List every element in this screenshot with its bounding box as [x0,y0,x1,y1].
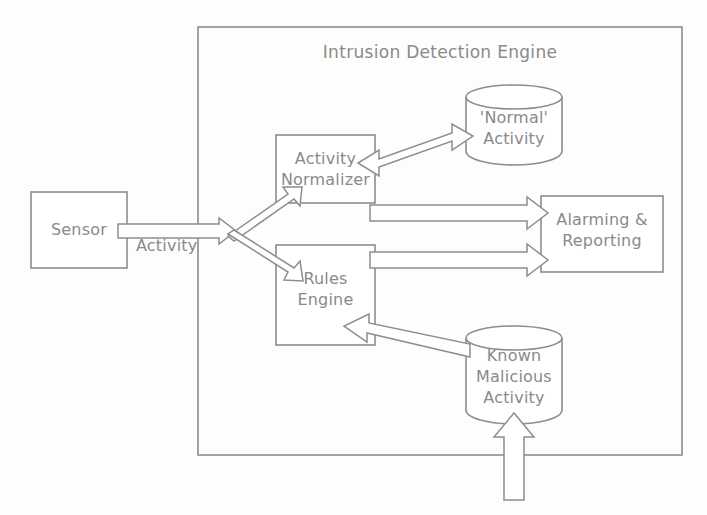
diagram-canvas: Intrusion Detection Engine Sensor Activi… [0,0,707,515]
normal-activity-cylinder[interactable] [466,85,562,165]
known-malicious-activity-cylinder[interactable] [466,326,562,424]
edge-sensor-activity [118,218,236,244]
diagram-svg [0,0,707,515]
alarming-reporting-box[interactable] [541,196,663,272]
edge-external-feed-to-malicious [494,413,534,500]
edge-malicious-to-rules [344,314,470,357]
sensor-box[interactable] [31,192,127,268]
edge-rules-alarming [370,244,548,276]
edge-normalizer-alarming [370,197,548,229]
